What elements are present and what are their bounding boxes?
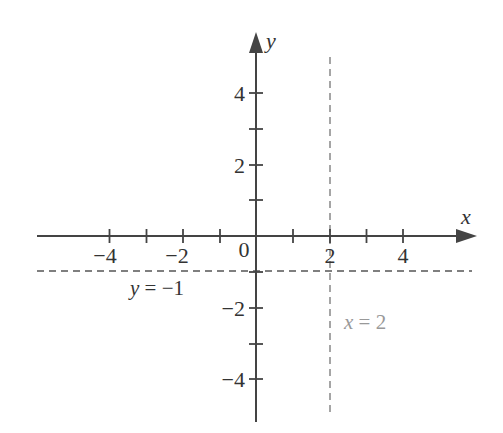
x-tick-label-neg4: −4 <box>93 243 116 268</box>
coordinate-plane: y x −4 −2 0 2 4 4 2 −2 −4 y = −1 x = 2 <box>0 0 503 433</box>
x-tick-label-4: 4 <box>398 243 409 268</box>
x-axis-label: x <box>460 204 471 229</box>
y-tick-label-2: 2 <box>234 153 245 178</box>
equation-label-y-minus-1: y = −1 <box>128 276 184 300</box>
y-tick-label-4: 4 <box>234 81 245 106</box>
y-axis-arrow-icon <box>249 32 263 53</box>
origin-label: 0 <box>239 237 250 262</box>
x-axis-arrow-icon <box>456 229 477 243</box>
x-tick-label-neg2: −2 <box>165 243 188 268</box>
y-axis-label: y <box>264 28 276 53</box>
equation-label-x-2: x = 2 <box>343 310 386 334</box>
x-tick-label-2: 2 <box>325 243 336 268</box>
y-tick-label-neg2: −2 <box>222 296 245 321</box>
y-tick-label-neg4: −4 <box>222 367 245 392</box>
